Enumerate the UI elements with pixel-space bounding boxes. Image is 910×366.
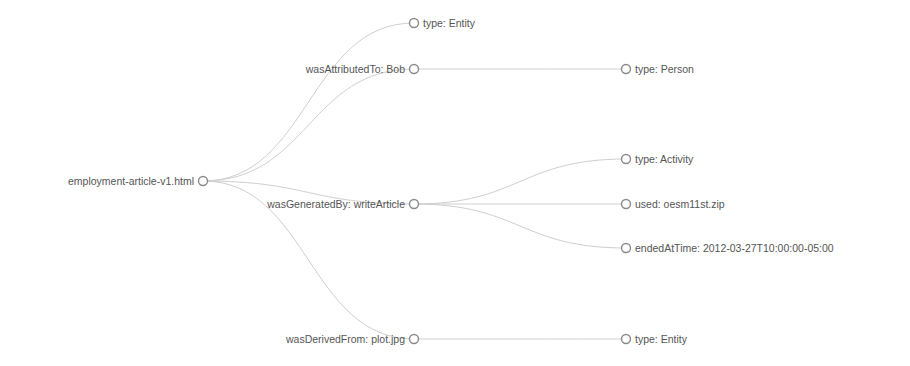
node-label: employment-article-v1.html xyxy=(68,175,194,187)
node-circle-icon[interactable] xyxy=(410,65,419,74)
node-circle-icon[interactable] xyxy=(199,177,208,186)
node-circle-icon[interactable] xyxy=(410,335,419,344)
node-label: type: Entity xyxy=(635,333,688,345)
node-label: type: Person xyxy=(635,63,694,75)
node-circle-icon[interactable] xyxy=(622,155,631,164)
tree-node-type-entity[interactable]: type: Entity xyxy=(622,333,688,345)
tree-link xyxy=(203,23,414,181)
node-circle-icon[interactable] xyxy=(410,19,419,28)
node-circle-icon[interactable] xyxy=(622,65,631,74)
provenance-tree-diagram: employment-article-v1.htmltype: Entitywa… xyxy=(0,0,910,366)
tree-node-type-entity[interactable]: type: Entity xyxy=(410,17,476,29)
node-label: endedAtTime: 2012-03-27T10:00:00-05:00 xyxy=(635,242,834,254)
node-label: type: Entity xyxy=(423,17,476,29)
tree-link xyxy=(203,69,414,181)
node-circle-icon[interactable] xyxy=(622,335,631,344)
tree-node-wasattributedto-bob[interactable]: wasAttributedTo: Bob xyxy=(305,63,419,75)
node-label: used: oesm11st.zip xyxy=(635,198,725,210)
node-circle-icon[interactable] xyxy=(410,200,419,209)
tree-node-used-oesm11st-zip[interactable]: used: oesm11st.zip xyxy=(622,198,725,210)
tree-node-type-person[interactable]: type: Person xyxy=(622,63,695,75)
node-label: wasDerivedFrom: plot.jpg xyxy=(285,333,405,345)
tree-link xyxy=(414,204,626,248)
tree-node-wasgeneratedby-writearticle[interactable]: wasGeneratedBy: writeArticle xyxy=(266,198,418,210)
node-circle-icon[interactable] xyxy=(622,244,631,253)
tree-node-employment-article-v1-html[interactable]: employment-article-v1.html xyxy=(68,175,208,187)
tree-link xyxy=(414,159,626,204)
node-label: type: Activity xyxy=(635,153,694,165)
node-label: wasGeneratedBy: writeArticle xyxy=(266,198,405,210)
tree-node-wasderivedfrom-plot-jpg[interactable]: wasDerivedFrom: plot.jpg xyxy=(285,333,419,345)
tree-node-type-activity[interactable]: type: Activity xyxy=(622,153,695,165)
node-circle-icon[interactable] xyxy=(622,200,631,209)
tree-node-endedattime-2012-03-27t10-00-00-05-00[interactable]: endedAtTime: 2012-03-27T10:00:00-05:00 xyxy=(622,242,834,254)
tree-nodes: employment-article-v1.htmltype: Entitywa… xyxy=(68,17,834,345)
node-label: wasAttributedTo: Bob xyxy=(305,63,405,75)
